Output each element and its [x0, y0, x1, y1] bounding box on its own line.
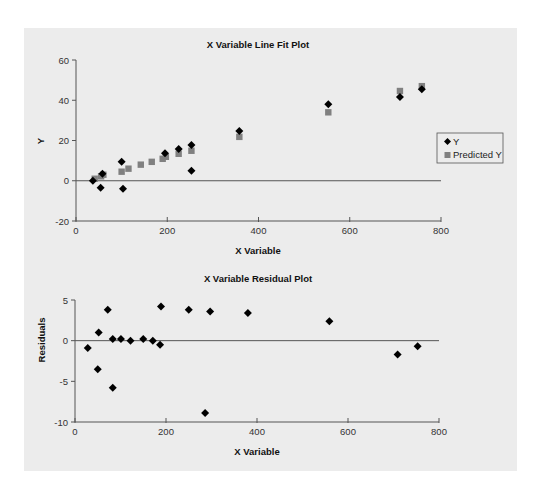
- x-tick-label: 400: [249, 426, 265, 437]
- line-fit-plot: X Variable Line Fit Plot X Variable Y 60…: [35, 39, 503, 256]
- x-tick-label: 0: [73, 225, 78, 236]
- charts-canvas: X Variable Line Fit Plot X Variable Y 60…: [0, 0, 540, 496]
- square-marker-icon: [149, 159, 155, 165]
- line-fit-plot-title: X Variable Line Fit Plot: [207, 39, 310, 50]
- square-marker-icon: [125, 165, 131, 171]
- y-tick-label: 40: [58, 95, 69, 106]
- y-tick-label: -10: [54, 417, 68, 428]
- diamond-marker-icon: [109, 384, 117, 392]
- y-tick-label: 0: [63, 335, 68, 346]
- legend-label-predicted-y: Predicted Y: [453, 149, 503, 160]
- diamond-marker-icon: [185, 306, 193, 314]
- diamond-marker-icon: [396, 93, 404, 101]
- diamond-marker-icon: [325, 317, 333, 325]
- diamond-marker-icon: [95, 329, 103, 337]
- line-fit-points: [89, 83, 426, 193]
- diamond-marker-icon: [84, 344, 92, 352]
- diamond-marker-icon: [324, 100, 332, 108]
- diamond-marker-icon: [119, 185, 127, 193]
- diamond-marker-icon: [117, 335, 125, 343]
- residual-plot-title: X Variable Residual Plot: [204, 273, 313, 284]
- diamond-marker-icon: [127, 337, 135, 345]
- residual-plot: X Variable Residual Plot X Variable Resi…: [36, 273, 447, 457]
- square-marker-icon: [138, 161, 144, 167]
- y-tick-label: -20: [55, 216, 69, 227]
- diamond-marker-icon: [97, 184, 105, 192]
- square-marker-icon: [445, 152, 451, 158]
- x-tick-label: 800: [431, 426, 447, 437]
- diamond-marker-icon: [156, 341, 164, 349]
- y-tick-label: 0: [64, 175, 69, 186]
- x-tick-label: 600: [340, 426, 356, 437]
- y-tick-label: 60: [58, 55, 69, 66]
- diamond-marker-icon: [201, 409, 209, 417]
- diamond-marker-icon: [206, 307, 214, 315]
- line-fit-y-axis-label: Y: [35, 137, 46, 144]
- diamond-marker-icon: [244, 309, 252, 317]
- legend-label-y: Y: [453, 136, 460, 147]
- line-fit-x-axis-label: X Variable: [235, 245, 280, 256]
- y-tick-label: 5: [63, 295, 68, 306]
- diamond-marker-icon: [139, 335, 147, 343]
- square-marker-icon: [325, 109, 331, 115]
- diamond-marker-icon: [149, 337, 157, 345]
- diamond-marker-icon: [414, 342, 422, 350]
- diamond-marker-icon: [109, 335, 117, 343]
- y-tick-label: 20: [58, 135, 69, 146]
- diamond-marker-icon: [187, 167, 195, 175]
- residual-x-axis-label: X Variable: [234, 446, 279, 457]
- line-fit-axes: 6040200-200200400600800: [55, 55, 449, 237]
- diamond-marker-icon: [104, 306, 112, 314]
- x-tick-label: 400: [251, 225, 267, 236]
- x-tick-label: 200: [159, 225, 175, 236]
- diamond-marker-icon: [94, 365, 102, 373]
- residual-y-axis-label: Residuals: [36, 318, 47, 363]
- residual-axes: 50-5-100200400600800: [54, 295, 447, 438]
- diamond-marker-icon: [157, 303, 165, 311]
- x-tick-label: 800: [433, 225, 449, 236]
- diamond-marker-icon: [118, 158, 126, 166]
- x-tick-label: 600: [342, 225, 358, 236]
- x-tick-label: 200: [158, 426, 174, 437]
- diamond-marker-icon: [394, 350, 402, 358]
- residual-points: [84, 303, 422, 418]
- y-tick-label: -5: [60, 376, 68, 387]
- x-tick-label: 0: [72, 426, 77, 437]
- legend: Y Predicted Y: [437, 133, 503, 163]
- square-marker-icon: [118, 168, 124, 174]
